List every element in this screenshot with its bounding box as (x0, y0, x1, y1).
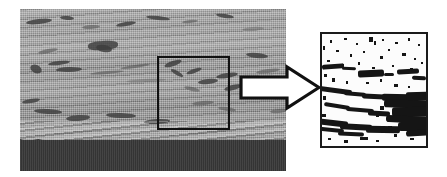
binary-streak (397, 68, 419, 74)
binary-speck (330, 40, 332, 43)
binary-streak (338, 132, 364, 137)
binary-speck (363, 51, 365, 53)
region-of-interest-box[interactable] (157, 56, 230, 130)
binary-speck (410, 138, 414, 140)
binary-speck (392, 65, 394, 67)
arrow-shape (241, 67, 319, 108)
binary-speck (324, 74, 327, 77)
binary-speck (356, 43, 358, 45)
binary-speck (344, 38, 347, 40)
binary-speck (380, 56, 383, 59)
binary-streak (412, 76, 426, 81)
binary-streak (384, 73, 394, 76)
binary-speck (376, 140, 379, 142)
binary-speck (372, 67, 375, 69)
binary-speck (374, 41, 376, 45)
binary-speck (366, 82, 369, 84)
binary-streak (358, 70, 384, 78)
binary-canvas (322, 34, 426, 146)
binary-speck (322, 114, 326, 117)
binary-speck (414, 58, 416, 60)
binary-streak (342, 67, 356, 70)
binary-speck (402, 53, 406, 56)
binary-speck (408, 38, 410, 41)
binary-speck (360, 137, 368, 140)
binary-speck (380, 106, 384, 110)
binary-speck (369, 37, 373, 42)
binary-streak (368, 110, 390, 116)
binary-speck (336, 50, 339, 52)
binary-speck (346, 81, 348, 84)
binary-streak (366, 126, 400, 134)
binary-speck (380, 79, 382, 82)
substrate-layer (20, 140, 286, 171)
binary-speck (327, 60, 330, 62)
binary-speck (395, 42, 398, 44)
binary-speck (408, 86, 410, 88)
binary-speck (323, 96, 326, 100)
binary-speck (421, 62, 423, 64)
binary-streak (322, 63, 344, 70)
binary-speck (323, 46, 325, 50)
binary-speck (382, 39, 384, 41)
binary-speck (394, 134, 397, 137)
binary-speck (394, 84, 398, 87)
binary-speck (358, 62, 360, 65)
binary-speck (388, 49, 390, 51)
binary-speck (350, 54, 352, 57)
binary-cluster (406, 129, 428, 136)
binary-speck (328, 138, 331, 140)
binary-speck (344, 140, 348, 143)
binary-speck (418, 44, 420, 46)
figure-container (0, 0, 447, 177)
pointer-arrow (239, 64, 321, 111)
binarised-roi[interactable] (320, 32, 428, 148)
binary-speck (332, 78, 335, 82)
